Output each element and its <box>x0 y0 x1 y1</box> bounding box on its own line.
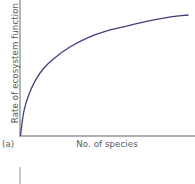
x-axis-label: No. of species <box>19 139 195 149</box>
ecosystem-function-figure-panel: Rate of ecosystem function No. of specie… <box>0 0 195 184</box>
ecosystem-function-curve <box>21 15 189 136</box>
plot-curve-svg <box>0 0 195 184</box>
next-panel-axis-fragment <box>19 167 21 184</box>
y-axis-label: Rate of ecosystem function <box>10 1 20 125</box>
panel-label: (a) <box>2 139 14 149</box>
